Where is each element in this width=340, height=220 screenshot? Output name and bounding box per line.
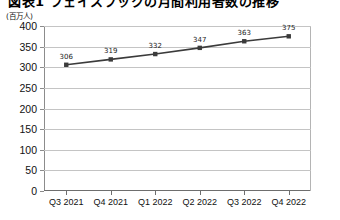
x-axis-tick-label: Q3 2022 xyxy=(227,197,262,207)
series-line xyxy=(66,36,289,64)
x-axis-tick-mark xyxy=(66,191,67,195)
x-axis-tick-label: Q4 2021 xyxy=(93,197,128,207)
data-point-marker xyxy=(198,46,202,50)
data-point-marker xyxy=(64,63,68,67)
data-point-value-label: 375 xyxy=(282,24,295,32)
y-axis-tick-label: 200 xyxy=(19,103,37,115)
series-line-group xyxy=(44,26,311,191)
data-point-value-label: 347 xyxy=(193,36,206,44)
y-axis-tick-label: 400 xyxy=(19,20,37,32)
x-axis-tick-mark xyxy=(111,191,112,195)
x-axis-tick-label: Q2 2022 xyxy=(182,197,217,207)
y-axis-tick-label: 250 xyxy=(19,82,37,94)
y-axis-tick-label: 100 xyxy=(19,144,37,156)
x-axis-tick-mark xyxy=(244,191,245,195)
x-axis-tick-mark xyxy=(200,191,201,195)
y-axis-tick-label: 50 xyxy=(25,164,37,176)
data-point-value-label: 363 xyxy=(238,29,251,37)
data-point-value-label: 306 xyxy=(60,53,73,61)
x-axis-tick-mark xyxy=(289,191,290,195)
data-point-marker xyxy=(242,39,246,43)
data-point-marker xyxy=(153,52,157,56)
y-axis-tick-label: 300 xyxy=(19,61,37,73)
x-axis-tick-mark xyxy=(155,191,156,195)
plot-area: 050100150200250300350400 Q3 2021Q4 2021Q… xyxy=(44,26,311,191)
x-axis-tick-label: Q3 2021 xyxy=(49,197,84,207)
chart-page: 図表1 フェイスブックの月間利用者数の推移 (百万人) 050100150200… xyxy=(0,0,340,220)
data-point-marker xyxy=(109,57,113,61)
chart-title: 図表1 フェイスブックの月間利用者数の推移 xyxy=(8,0,279,8)
y-axis-tick-label: 350 xyxy=(19,41,37,53)
data-point-marker xyxy=(287,34,291,38)
y-axis-tick-label: 150 xyxy=(19,123,37,135)
y-axis-tick-mark xyxy=(40,191,44,192)
y-axis-tick-label: 0 xyxy=(31,185,37,197)
data-point-value-label: 319 xyxy=(104,47,117,55)
data-point-value-label: 332 xyxy=(149,42,162,50)
x-axis-tick-label: Q1 2022 xyxy=(138,197,173,207)
chart-title-clip: 図表1 フェイスブックの月間利用者数の推移 xyxy=(0,0,340,8)
x-axis-tick-label: Q4 2022 xyxy=(271,197,306,207)
